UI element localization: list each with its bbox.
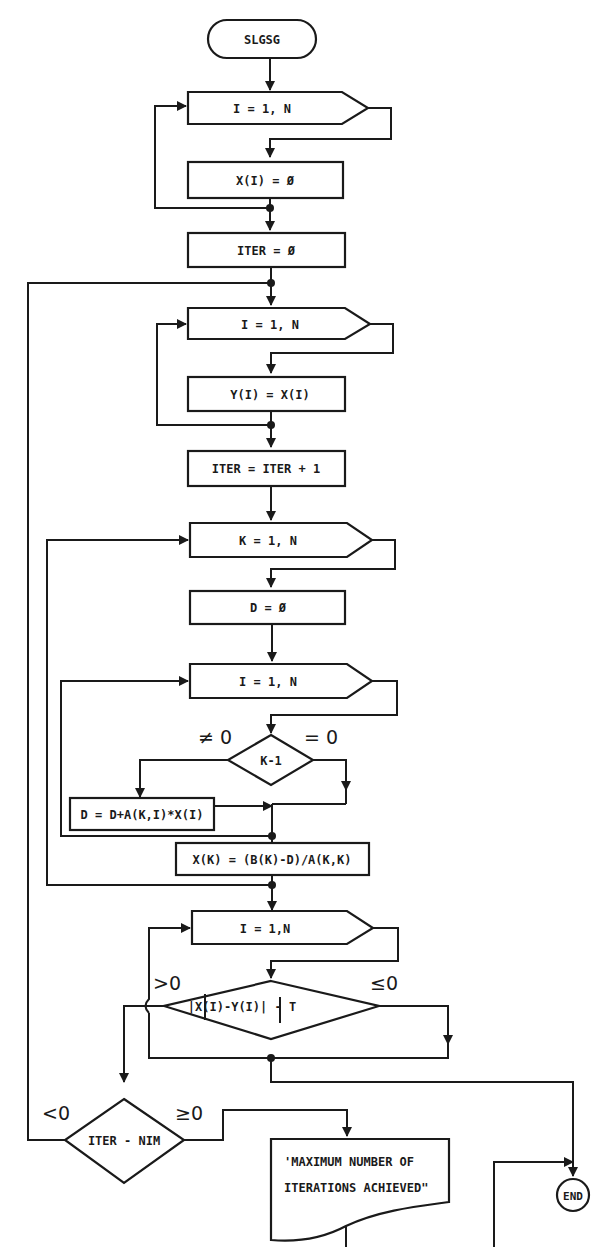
branch-label-greater-equal-zero: ≥0: [175, 1102, 203, 1124]
end-label: END: [563, 1190, 583, 1203]
end-terminal: END: [557, 1179, 589, 1211]
branch-gt-zero-connector: [124, 1006, 164, 1082]
flowchart-canvas: SLGSG I = 1, N X(I) = Ø ITER = Ø I = 1, …: [0, 0, 611, 1247]
copy-y-label: Y(I) = X(I): [230, 388, 309, 402]
process-copy-y: Y(I) = X(I): [188, 377, 345, 411]
decision-iter-label: ITER - NIM: [88, 1134, 160, 1148]
loop2-label: I = 1, N: [241, 318, 299, 332]
branch-label-zero: = 0: [304, 726, 338, 748]
process-increment-iter: ITER = ITER + 1: [188, 451, 345, 486]
process-init-d: D = Ø: [190, 591, 345, 624]
output-message-document: 'MAXIMUM NUMBER OF ITERATIONS ACHIEVED": [271, 1139, 449, 1241]
loop-inner-i: I = 1, N: [190, 664, 372, 698]
loop3-label: I = 1, N: [239, 675, 297, 689]
decision-k-minus-1: K-1: [228, 735, 313, 785]
start-label: SLGSG: [244, 33, 280, 47]
branch-ge-zero-connector: [184, 1110, 347, 1140]
loop4-label: I = 1,N: [240, 922, 291, 936]
loop-init-x: I = 1, N: [188, 92, 368, 124]
loop-back-connector: [146, 928, 191, 1013]
loop-copy-y: I = 1, N: [188, 308, 370, 339]
process-init-iter: ITER = Ø: [188, 233, 345, 267]
loop-k: K = 1, N: [190, 523, 372, 557]
branch-zero-connector: [313, 760, 346, 790]
accumulate-d-label: D = D+A(K,I)*X(I): [81, 808, 204, 822]
loop-convergence: I = 1,N: [192, 911, 373, 944]
decision-convergence: |X(I)-Y(I)| - T: [164, 981, 379, 1039]
process-accumulate-d: D = D+A(K,I)*X(I): [70, 798, 214, 830]
init-iter-label: ITER = Ø: [237, 244, 296, 258]
branch-label-not-zero: ≠ 0: [198, 726, 232, 748]
branch-label-greater-zero: >0: [153, 972, 181, 994]
init-x-label: X(I) = Ø: [236, 174, 295, 188]
decision-conv-label: |X(I)-Y(I)| - T: [188, 1000, 296, 1014]
branch-not-zero-connector: [140, 760, 228, 797]
branch-label-less-equal-zero: ≤0: [370, 972, 398, 994]
branch-label-less-zero: <0: [42, 1102, 70, 1124]
loop-k-label: K = 1, N: [239, 534, 297, 548]
init-d-label: D = Ø: [250, 601, 287, 615]
process-init-x: X(I) = Ø: [188, 162, 343, 198]
process-compute-x: X(K) = (B(K)-D)/A(K,K): [176, 843, 369, 875]
loop1-label: I = 1, N: [233, 102, 291, 116]
branch-le-zero-connector: [379, 1006, 448, 1044]
start-terminal: SLGSG: [208, 20, 316, 58]
inc-iter-label: ITER = ITER + 1: [212, 462, 320, 476]
message-line-1: 'MAXIMUM NUMBER OF: [284, 1155, 414, 1169]
compute-x-label: X(K) = (B(K)-D)/A(K,K): [193, 853, 352, 867]
decision-iteration-limit: ITER - NIM: [65, 1099, 184, 1183]
message-line-2: ITERATIONS ACHIEVED": [284, 1181, 429, 1195]
decision-k-label: K-1: [260, 754, 282, 768]
